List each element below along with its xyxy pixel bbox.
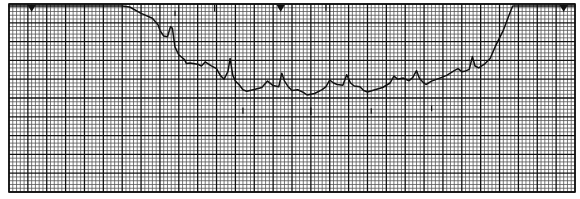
ecg-strip-chart — [0, 0, 580, 199]
